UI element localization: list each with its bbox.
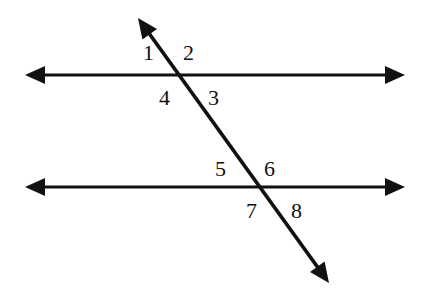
angle-labels: 1 2 4 3 5 6 7 8 (143, 40, 302, 223)
angle-label-3: 3 (208, 85, 219, 110)
diagram-canvas: 1 2 4 3 5 6 7 8 (0, 0, 424, 303)
arrow-left-icon (25, 178, 45, 196)
angle-label-5: 5 (215, 156, 226, 181)
angle-label-4: 4 (159, 85, 170, 110)
angle-label-1: 1 (143, 40, 154, 65)
transversal-line (149, 33, 319, 269)
arrowheads (25, 18, 405, 283)
arrow-left-icon (25, 66, 45, 84)
arrow-down-icon (310, 262, 329, 283)
angle-label-2: 2 (183, 40, 194, 65)
angle-label-8: 8 (291, 198, 302, 223)
angle-label-7: 7 (246, 198, 257, 223)
arrow-right-icon (385, 178, 405, 196)
arrow-right-icon (385, 66, 405, 84)
arrow-up-icon (138, 18, 157, 39)
angle-label-6: 6 (264, 156, 275, 181)
